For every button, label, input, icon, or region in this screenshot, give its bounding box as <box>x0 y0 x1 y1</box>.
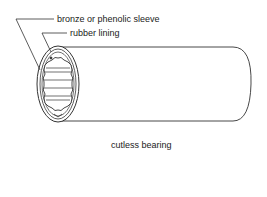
lining-dot <box>50 57 52 59</box>
cutless-bearing-diagram: bronze or phenolic sleeve rubber lining … <box>0 0 267 197</box>
label-rubber-lining: rubber lining <box>70 28 120 38</box>
bearing-cylinder <box>60 47 251 121</box>
bearing-end-face <box>37 46 79 122</box>
diagram-caption: cutless bearing <box>111 140 172 150</box>
label-bronze-sleeve: bronze or phenolic sleeve <box>57 14 160 24</box>
cylinder-outline <box>60 47 251 121</box>
rubber-lining-flutes <box>43 57 73 110</box>
